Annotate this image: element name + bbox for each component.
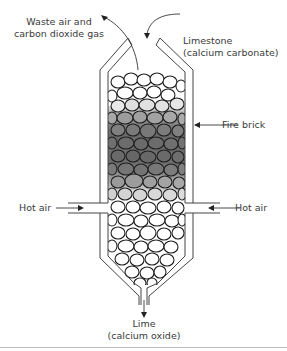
waste-gas-label: Waste air and carbon dioxide gas [14,16,104,40]
limestone-label-line2: (calcium carbonate) [183,47,278,59]
waste-gas-label-line2: carbon dioxide gas [14,28,104,40]
hot-air-right-label: Hot air [235,202,267,214]
hot-air-left-label: Hot air [19,202,51,214]
fire-brick-label: Fire brick [222,119,265,131]
lime-label-line1: Lime [94,318,194,330]
limestone-label: Limestone (calcium carbonate) [183,35,278,59]
waste-gas-label-line1: Waste air and [14,16,104,28]
lime-label: Lime (calcium oxide) [94,318,194,342]
limestone-label-line1: Limestone [183,35,278,47]
lime-label-line2: (calcium oxide) [94,330,194,342]
